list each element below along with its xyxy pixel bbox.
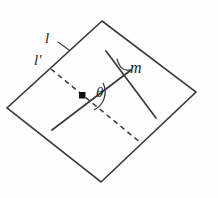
label-angle-theta: θ — [96, 85, 103, 100]
label-line-l-prime: l′ — [34, 53, 41, 68]
intersection-dot — [79, 92, 86, 99]
label-line-m: m — [130, 60, 142, 76]
line-l — [52, 70, 131, 130]
l-leader-line — [58, 42, 69, 50]
label-line-l: l — [45, 31, 49, 46]
figure-canvas — [0, 0, 218, 198]
plane-parallelogram — [7, 21, 196, 182]
geometry-figure: l l′ m θ — [0, 0, 218, 198]
